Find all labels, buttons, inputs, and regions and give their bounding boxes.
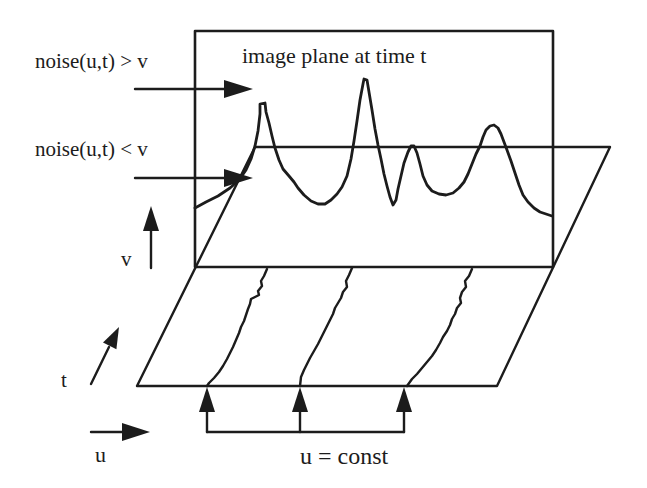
image-plane-label: image plane at time t bbox=[242, 43, 427, 68]
v-axis-arrow bbox=[143, 206, 159, 268]
t-axis-label: t bbox=[61, 368, 67, 392]
u-axis-label: u bbox=[95, 442, 106, 467]
u-const-path-1 bbox=[207, 269, 267, 386]
u-const-arrow-2 bbox=[292, 387, 308, 432]
noise-threshold-diagram: noise(u,t) > v noise(u,t) < v image plan… bbox=[0, 0, 647, 488]
u-const-path-3 bbox=[407, 269, 472, 386]
u-const-path-2 bbox=[300, 268, 352, 386]
above-threshold-label: noise(u,t) > v bbox=[35, 49, 148, 73]
u-axis-arrow bbox=[91, 423, 150, 441]
below-threshold-label: noise(u,t) < v bbox=[35, 137, 148, 161]
u-const-label: u = const bbox=[300, 443, 389, 469]
figure-canvas: noise(u,t) > v noise(u,t) < v image plan… bbox=[0, 0, 647, 488]
t-axis-arrow bbox=[91, 327, 119, 384]
u-const-arrow-1 bbox=[199, 387, 215, 432]
v-axis-label: v bbox=[121, 247, 132, 271]
u-const-arrow-3 bbox=[396, 387, 412, 432]
